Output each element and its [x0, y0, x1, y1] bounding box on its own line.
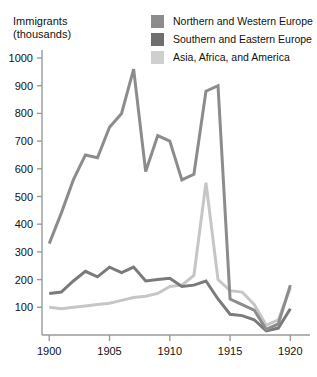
y-axis-tick-label: 100: [15, 301, 33, 313]
y-axis-tick-label: 900: [15, 80, 33, 92]
y-axis-tick-label: 300: [15, 246, 33, 258]
data-series-line: [49, 69, 290, 329]
plot-area: 1002003004005006007008009001000190019051…: [0, 0, 317, 377]
x-axis-tick-label: 1910: [158, 345, 182, 357]
data-series-line: [49, 183, 290, 326]
x-axis-tick-label: 1920: [278, 345, 302, 357]
y-axis-tick-label: 700: [15, 135, 33, 147]
y-axis-tick-label: 600: [15, 163, 33, 175]
y-axis-tick-label: 500: [15, 191, 33, 203]
x-axis-tick-label: 1905: [97, 345, 121, 357]
y-axis-tick-label: 200: [15, 274, 33, 286]
y-axis-tick-label: 1000: [9, 52, 33, 64]
data-series-line: [49, 267, 290, 331]
x-axis-tick-label: 1900: [37, 345, 61, 357]
immigration-line-chart: Immigrants(thousands) Northern and Weste…: [0, 0, 317, 377]
y-axis-tick-label: 800: [15, 107, 33, 119]
y-axis-tick-label: 400: [15, 218, 33, 230]
x-axis-tick-label: 1915: [218, 345, 242, 357]
